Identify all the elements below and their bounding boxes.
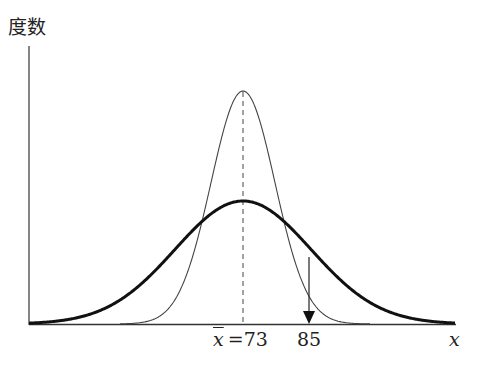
normal-distribution-diagram bbox=[0, 0, 479, 368]
marker-label: 85 bbox=[297, 328, 321, 350]
arrow-head-icon bbox=[303, 311, 315, 324]
narrow-curve bbox=[120, 91, 370, 324]
mean-symbol: x bbox=[213, 328, 224, 350]
mean-value: =73 bbox=[228, 328, 268, 350]
wide-curve bbox=[29, 201, 455, 323]
y-axis-label: 度数 bbox=[8, 12, 46, 39]
mean-label: x=73 bbox=[213, 328, 268, 350]
x-axis-label: x bbox=[449, 328, 460, 350]
